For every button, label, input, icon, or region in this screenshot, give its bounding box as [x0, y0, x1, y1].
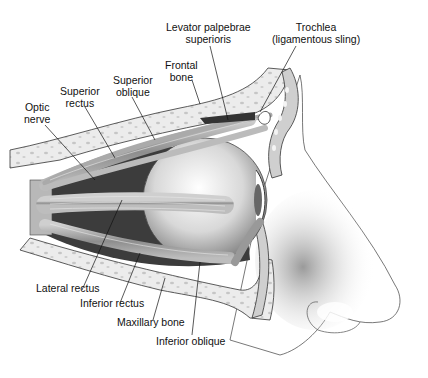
label-maxillary-bone: Maxillary bone	[117, 317, 185, 329]
trochlea-shape	[258, 111, 270, 124]
anatomy-illustration	[0, 0, 428, 378]
label-optic-nerve: Optic nerve	[24, 102, 50, 125]
label-superior-rectus: Superior rectus	[60, 86, 100, 109]
label-lateral-rectus: Lateral rectus	[36, 283, 100, 295]
label-levator-palpebrae-superioris: Levator palpebrae superioris	[166, 22, 251, 45]
label-trochlea: Trochlea (ligamentous sling)	[272, 22, 360, 45]
label-frontal-bone: Frontal bone	[165, 60, 198, 83]
label-inferior-rectus: Inferior rectus	[80, 298, 144, 310]
label-inferior-oblique: Inferior oblique	[156, 336, 225, 348]
eye-muscles-diagram: Levator palpebrae superioris Trochlea (l…	[0, 0, 428, 378]
label-superior-oblique: Superior oblique	[113, 75, 153, 98]
